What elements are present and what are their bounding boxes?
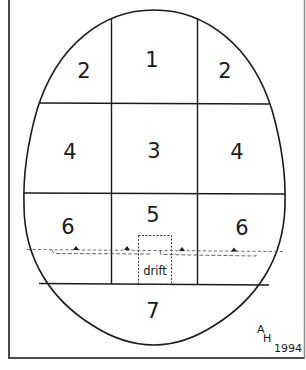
- author-signature: A H 1994: [257, 323, 302, 355]
- marker-4: [231, 248, 237, 252]
- zone-1-label: 1: [145, 48, 158, 72]
- zone-6-left-label: 6: [61, 215, 74, 239]
- horizontal-divider-3: [39, 284, 269, 286]
- signature-initial-h: H: [263, 332, 271, 345]
- zone-4-left-label: 4: [63, 140, 76, 164]
- drift-label: drift: [143, 264, 167, 278]
- marker-1: [73, 246, 79, 250]
- zone-labels: 1 2 2 3 4 4 5 6 6 7: [61, 48, 248, 323]
- zone-5-label: 5: [146, 203, 159, 227]
- zone-diagram: drift 1 2 2 3 4 4 5 6 6 7: [0, 0, 306, 370]
- zone-7-label: 7: [146, 299, 159, 323]
- level-line-lower-right: [160, 251, 256, 256]
- marker-2: [124, 246, 130, 250]
- horizontal-divider-2: [24, 193, 285, 194]
- signature-year: 1994: [274, 342, 302, 355]
- zone-6-right-label: 6: [235, 216, 248, 240]
- level-line-upper: [27, 250, 285, 252]
- zone-2-left-label: 2: [77, 59, 90, 83]
- horizontal-divider-1: [40, 103, 269, 104]
- zone-2-right-label: 2: [218, 59, 231, 83]
- drift-box: drift: [139, 236, 172, 285]
- marker-3: [179, 247, 185, 251]
- level-line-lower-left: [52, 250, 150, 254]
- zone-4-right-label: 4: [230, 140, 243, 164]
- zone-3-label: 3: [147, 139, 160, 163]
- level-lines: [27, 250, 285, 257]
